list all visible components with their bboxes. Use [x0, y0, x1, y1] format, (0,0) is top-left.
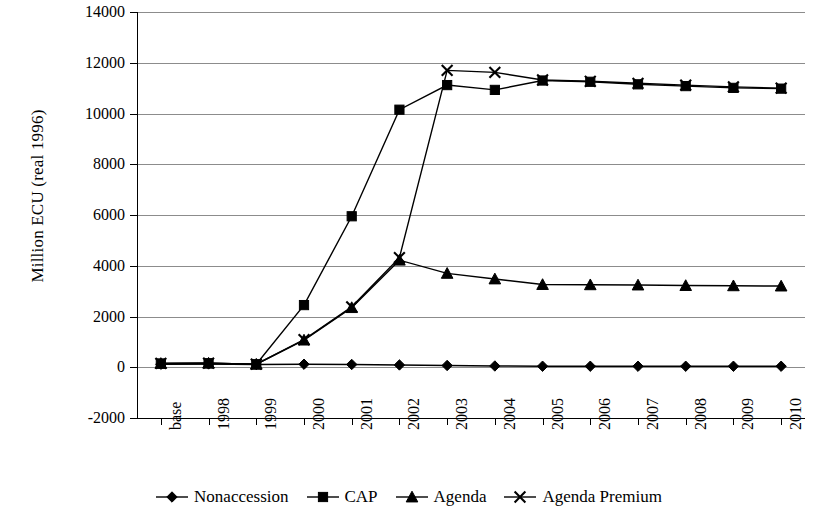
data-point-marker [299, 359, 309, 369]
x-tick-label: 2001 [358, 398, 376, 430]
legend-label: CAP [345, 487, 378, 507]
legend-marker-icon [306, 488, 340, 506]
data-point-marker [585, 361, 595, 371]
x-tick-label: 2003 [453, 398, 471, 430]
x-tick-mark [256, 418, 257, 425]
y-axis-title: Million ECU (real 1996) [28, 76, 48, 316]
data-point-marker [299, 300, 308, 309]
legend-item: Nonaccession [155, 487, 288, 507]
y-tick-label: 6000 [93, 206, 125, 224]
x-tick-mark [543, 418, 544, 425]
x-tick-label: 2005 [549, 398, 567, 430]
x-tick-mark [638, 418, 639, 425]
x-tick-mark [781, 418, 782, 425]
y-tick-label: 10000 [85, 104, 125, 122]
legend-item: Agenda Premium [503, 487, 661, 507]
data-point-marker [728, 361, 738, 371]
legend-marker-icon [155, 488, 189, 506]
y-tick-mark [130, 63, 137, 64]
y-tick-label: 12000 [85, 53, 125, 71]
x-tick-label: 2000 [310, 398, 328, 430]
x-tick-mark [161, 418, 162, 425]
data-series [155, 65, 786, 370]
y-tick-mark [130, 114, 137, 115]
x-tick-mark [352, 418, 353, 425]
x-tick-mark [733, 418, 734, 425]
x-tick-label: 2006 [596, 398, 614, 430]
data-point-marker [537, 361, 547, 371]
y-tick-label: -2000 [88, 409, 125, 427]
data-point-marker [681, 361, 691, 371]
x-tick-label: 1998 [215, 398, 233, 430]
y-tick-mark [130, 418, 137, 419]
y-tick-mark [130, 215, 137, 216]
x-tick-label: 2009 [739, 398, 757, 430]
data-series-layer [137, 12, 805, 418]
y-tick-mark [130, 266, 137, 267]
y-tick-mark [130, 367, 137, 368]
data-point-marker [633, 361, 643, 371]
data-point-marker [490, 361, 500, 371]
chart-container: Million ECU (real 1996) 1400012000100008… [0, 0, 817, 514]
x-tick-label: 1999 [262, 398, 280, 430]
x-tick-mark [590, 418, 591, 425]
legend-label: Agenda [434, 487, 487, 507]
x-tick-label: 2004 [501, 398, 519, 430]
legend-label: Nonaccession [194, 487, 288, 507]
data-series [155, 254, 787, 369]
data-point-marker [490, 85, 499, 94]
x-tick-mark [399, 418, 400, 425]
legend-marker-icon [503, 488, 537, 506]
x-tick-label: 2010 [787, 398, 805, 430]
x-tick-mark [686, 418, 687, 425]
y-tick-label: 0 [117, 358, 125, 376]
y-tick-label: 2000 [93, 307, 125, 325]
y-tick-mark [130, 317, 137, 318]
chart-legend: NonaccessionCAPAgendaAgenda Premium [0, 487, 817, 507]
data-point-marker [347, 359, 357, 369]
y-tick-label: 4000 [93, 256, 125, 274]
y-tick-mark [130, 164, 137, 165]
x-tick-label: 2007 [644, 398, 662, 430]
x-tick-label: 2008 [692, 398, 710, 430]
x-tick-label: base [167, 402, 185, 430]
y-tick-mark [130, 12, 137, 13]
y-tick-label: 8000 [93, 155, 125, 173]
data-point-marker [776, 361, 786, 371]
x-tick-mark [304, 418, 305, 425]
x-tick-mark [495, 418, 496, 425]
data-point-marker [347, 212, 356, 221]
x-tick-mark [447, 418, 448, 425]
data-point-marker [442, 360, 452, 370]
y-tick-label: 14000 [85, 3, 125, 21]
x-tick-mark [209, 418, 210, 425]
plot-area: 14000120001000080006000400020000-2000 ba… [137, 12, 805, 418]
legend-item: Agenda [395, 487, 487, 507]
data-point-marker [395, 105, 404, 114]
data-series [156, 76, 785, 369]
legend-marker-icon [395, 488, 429, 506]
legend-label: Agenda Premium [542, 487, 661, 507]
x-tick-label: 2002 [405, 398, 423, 430]
legend-item: CAP [306, 487, 378, 507]
data-point-marker [394, 360, 404, 370]
